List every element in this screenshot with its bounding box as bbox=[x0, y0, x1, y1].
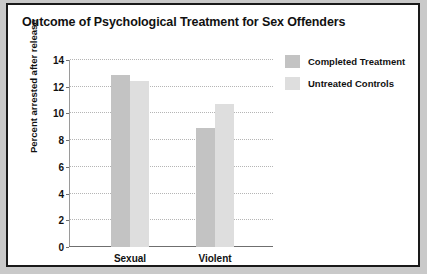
chart-title: Outcome of Psychological Treatment for S… bbox=[22, 15, 345, 29]
x-axis-tick-label: ViolentOffense bbox=[176, 253, 254, 267]
bar-untreated-controls bbox=[215, 104, 234, 247]
y-axis-tick-label: 2 bbox=[58, 215, 64, 226]
y-axis-tick-mark bbox=[66, 247, 69, 248]
legend-item: Untreated Controls bbox=[285, 77, 415, 90]
chart-legend: Completed TreatmentUntreated Controls bbox=[285, 55, 415, 99]
y-axis-tick-label: 6 bbox=[58, 161, 64, 172]
y-axis-tick-mark bbox=[66, 194, 69, 195]
legend-item-label: Untreated Controls bbox=[308, 78, 394, 89]
x-axis-tick-label-line: Offense bbox=[176, 265, 254, 267]
y-axis-tick-label: 10 bbox=[53, 108, 64, 119]
legend-swatch-completed bbox=[285, 55, 300, 68]
x-axis-tick-label-line: Sexual bbox=[91, 253, 169, 265]
y-axis-tick-label: 8 bbox=[58, 135, 64, 146]
legend-swatch-untreated bbox=[285, 77, 300, 90]
legend-item: Completed Treatment bbox=[285, 55, 415, 68]
legend-item-label: Completed Treatment bbox=[308, 56, 405, 67]
y-axis-tick-mark bbox=[66, 113, 69, 114]
y-axis-tick-label: 4 bbox=[58, 188, 64, 199]
y-axis-tick-mark bbox=[66, 87, 69, 88]
y-axis-title: Percent arrested after release bbox=[28, 19, 39, 153]
plot-area: 02468101214 SexualOffenseViolentOffense bbox=[69, 60, 273, 247]
bar-completed-treatment bbox=[196, 128, 215, 247]
y-axis-tick-label: 14 bbox=[53, 55, 64, 66]
y-axis-tick-mark bbox=[66, 60, 69, 61]
x-axis-tick-label: SexualOffense bbox=[91, 253, 169, 267]
y-axis-tick-mark bbox=[66, 140, 69, 141]
bar-completed-treatment bbox=[111, 75, 130, 247]
x-axis-tick-label-line: Offense bbox=[91, 265, 169, 267]
bar-group: SexualOffense bbox=[91, 60, 169, 247]
y-axis-tick-mark bbox=[66, 220, 69, 221]
y-axis-tick-label: 0 bbox=[58, 242, 64, 253]
y-axis-tick-mark bbox=[66, 167, 69, 168]
x-axis-tick-label-line: Violent bbox=[176, 253, 254, 265]
bar-group: ViolentOffense bbox=[176, 60, 254, 247]
y-axis-tick-label: 12 bbox=[53, 81, 64, 92]
bar-untreated-controls bbox=[130, 81, 149, 247]
chart-figure: Outcome of Psychological Treatment for S… bbox=[6, 3, 420, 267]
